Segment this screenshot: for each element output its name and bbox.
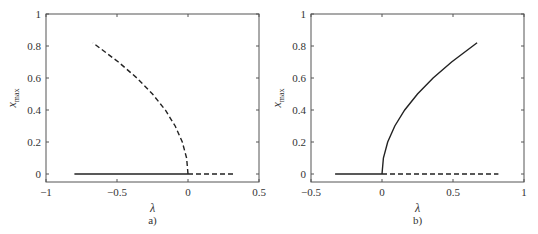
x-axis-label: λ <box>414 201 420 215</box>
chart-panel-a: −1−0.500.500.20.40.60.81λa)xmax <box>5 8 266 227</box>
chart-panel-b: −0.500.5100.20.40.60.81λb)xmax <box>270 8 527 227</box>
y-tick-label: 0 <box>301 168 307 180</box>
y-axis-label: xmax <box>5 88 21 108</box>
panel-label: a) <box>148 214 157 227</box>
y-tick-label: 1 <box>301 8 307 20</box>
x-axis-label: λ <box>149 201 155 215</box>
y-tick-label: 0.6 <box>292 72 306 84</box>
x-tick-label: −1 <box>40 186 52 198</box>
panel-label: b) <box>413 214 423 227</box>
series-line <box>382 43 477 174</box>
axes-frame <box>46 14 259 182</box>
y-tick-label: 0.2 <box>292 136 306 148</box>
y-tick-label: 0.8 <box>292 40 306 52</box>
series-line <box>93 43 188 174</box>
y-tick-label: 0.2 <box>27 136 41 148</box>
y-tick-label: 0 <box>36 168 42 180</box>
x-tick-label: −0.5 <box>107 186 127 198</box>
y-tick-label: 0.6 <box>27 72 41 84</box>
x-tick-label: 0 <box>185 186 191 198</box>
x-tick-label: 0 <box>379 186 385 198</box>
x-tick-label: 1 <box>521 186 527 198</box>
y-tick-label: 1 <box>36 8 42 20</box>
x-tick-label: 0.5 <box>252 186 266 198</box>
x-tick-label: 0.5 <box>446 186 460 198</box>
y-tick-label: 0.4 <box>292 104 306 116</box>
axes-frame <box>311 14 524 182</box>
bifurcation-figure: −1−0.500.500.20.40.60.81λa)xmax−0.500.51… <box>0 0 538 234</box>
y-axis-label: xmax <box>270 88 286 108</box>
y-tick-label: 0.4 <box>27 104 41 116</box>
x-tick-label: −0.5 <box>301 186 321 198</box>
y-tick-label: 0.8 <box>27 40 41 52</box>
